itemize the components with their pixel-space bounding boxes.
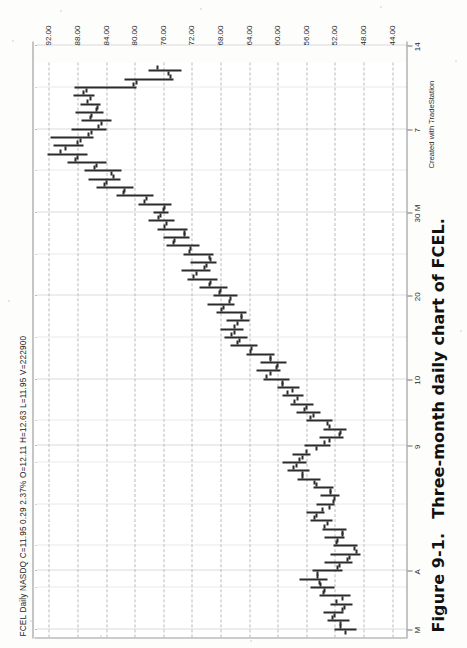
ohlc-close-tick	[87, 132, 89, 136]
ohlc-close-tick	[292, 465, 294, 469]
price-gridline	[334, 62, 335, 637]
ohlc-open-tick	[318, 580, 320, 584]
date-gridline-minor	[34, 461, 406, 462]
ohlc-close-tick	[233, 324, 235, 328]
plot-top-rule	[32, 41, 33, 638]
price-tick-label: 64.00	[244, 25, 253, 45]
rotated-figure: FCEL Daily NASDQ C=11.95 0.29 2.37% O=12…	[0, 0, 467, 648]
price-gridline	[77, 62, 78, 637]
price-gridline	[134, 62, 135, 637]
ohlc-bar	[124, 78, 173, 80]
date-gridline-minor	[34, 419, 406, 420]
date-tick	[407, 295, 412, 296]
ohlc-bar	[224, 336, 247, 338]
date-tick-label: 30 M	[412, 204, 421, 222]
ohlc-close-tick	[192, 274, 194, 278]
ohlc-open-tick	[90, 130, 92, 134]
scan-speckle	[12, 40, 14, 42]
ohlc-bar	[199, 286, 228, 288]
ohlc-open-tick	[323, 588, 325, 592]
ohlc-open-tick	[295, 463, 297, 467]
ohlc-open-tick	[219, 288, 221, 292]
ohlc-open-tick	[238, 338, 240, 342]
ohlc-open-tick	[159, 213, 161, 217]
ohlc-bar	[96, 186, 133, 188]
ohlc-open-tick	[339, 430, 341, 434]
price-gridline	[363, 62, 364, 637]
ohlc-open-tick	[189, 246, 191, 250]
ohlc-open-tick	[353, 546, 355, 550]
ohlc-bar	[74, 86, 136, 88]
price-gridline	[106, 62, 107, 637]
ohlc-open-tick	[90, 113, 92, 117]
ohlc-bar	[207, 303, 234, 305]
ohlc-open-tick	[326, 521, 328, 525]
ohlc-open-tick	[326, 421, 328, 425]
ohlc-close-tick	[298, 457, 300, 461]
ohlc-bar	[230, 344, 257, 346]
ohlc-close-tick	[86, 99, 88, 103]
date-tick	[407, 212, 412, 213]
date-tick-label: 9	[412, 444, 421, 448]
ohlc-open-tick	[209, 280, 211, 284]
ohlc-close-tick	[321, 507, 323, 511]
ohlc-open-tick	[269, 371, 271, 375]
ohlc-close-tick	[156, 65, 158, 69]
price-tick-label: 84.00	[101, 25, 110, 45]
scan-speckle	[250, 640, 252, 642]
date-tick	[407, 629, 412, 630]
price-axis: 92.0088.0084.0080.0076.0072.0068.0064.00…	[34, 23, 406, 63]
ohlc-open-tick	[339, 621, 341, 625]
ohlc-close-tick	[309, 415, 311, 419]
ohlc-close-tick	[286, 390, 288, 394]
ohlc-open-tick	[343, 605, 345, 609]
ohlc-open-tick	[333, 496, 335, 500]
price-gridline	[48, 62, 49, 637]
ohlc-open-tick	[85, 88, 87, 92]
ohlc-open-tick	[208, 255, 210, 259]
date-tick-label: 20	[412, 292, 421, 301]
ohlc-open-tick	[329, 488, 331, 492]
ohlc-open-tick	[281, 380, 283, 384]
ohlc-close-tick	[82, 90, 84, 94]
scan-speckle	[8, 300, 10, 302]
date-tick-label: 7	[412, 127, 421, 131]
ohlc-open-tick	[163, 205, 165, 209]
ohlc-bar	[157, 228, 187, 230]
ohlc-open-tick	[341, 530, 343, 534]
scan-speckle	[455, 60, 457, 62]
date-gridline	[34, 569, 406, 570]
ohlc-close-tick	[293, 399, 295, 403]
ohlc-bar	[75, 111, 102, 113]
ohlc-close-tick	[230, 332, 232, 336]
ohlc-open-tick	[316, 571, 318, 575]
ohlc-bar	[260, 361, 286, 363]
ohlc-open-tick	[315, 513, 317, 517]
date-tick	[407, 570, 412, 571]
figure-caption-text: Three-month daily chart of FCEL.	[428, 218, 447, 519]
ohlc-open-tick	[79, 138, 81, 142]
ohlc-bar	[84, 169, 121, 171]
date-gridline	[34, 444, 406, 445]
ohlc-bar	[190, 261, 216, 263]
price-tick-label: 92.00	[44, 25, 53, 45]
ohlc-bar	[296, 411, 320, 413]
date-tick-label: A	[412, 569, 421, 574]
ohlc-open-tick	[229, 296, 231, 300]
ohlc-open-tick	[110, 171, 112, 175]
ohlc-open-tick	[89, 96, 91, 100]
ohlc-close-tick	[335, 599, 337, 603]
ohlc-bar	[330, 603, 351, 605]
ohlc-bar	[67, 161, 106, 163]
price-tick-label: 68.00	[216, 25, 225, 45]
ohlc-open-tick	[291, 388, 293, 392]
ohlc-open-tick	[195, 271, 197, 275]
ohlc-open-tick	[312, 413, 314, 417]
ohlc-bar	[116, 194, 153, 196]
price-tick-label: 44.00	[387, 25, 396, 45]
price-tick-label: 72.00	[187, 25, 196, 45]
date-tick	[407, 45, 412, 46]
ohlc-open-tick	[236, 321, 238, 325]
date-axis: MA9102030 M7142120J	[406, 41, 427, 638]
ohlc-close-tick	[323, 440, 325, 444]
